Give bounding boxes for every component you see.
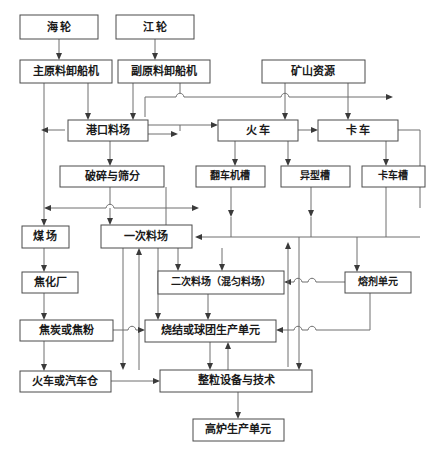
node-gaolu-label: 高炉生产单元 xyxy=(205,422,271,435)
arrow-bus-top-right xyxy=(386,94,393,100)
node-kuangshan-label: 矿山资源 xyxy=(291,64,335,77)
node-fuyuanliao-xiechuanji[interactable]: 副原料卸船机 xyxy=(118,60,210,83)
arrow-yixingcao-down xyxy=(308,210,314,217)
node-huoche-label: 火 车 xyxy=(246,123,271,136)
node-shaojie-qiutuan-danyuan[interactable]: 烧结或球团生产单元 xyxy=(145,320,276,342)
node-gaolu-shengchan-danyuan[interactable]: 高炉生产单元 xyxy=(193,419,284,441)
node-jiaotan-label: 焦炭或焦粉 xyxy=(38,323,94,336)
arrow-yiciliaochang-to-zhengli xyxy=(120,363,126,370)
node-gangkou-label: 港口料场 xyxy=(86,123,130,136)
arrow-mid-bus-to-right xyxy=(192,205,199,211)
arrow-kuangshan-to-kache xyxy=(345,113,351,120)
node-posui-yu-shaifen[interactable]: 破碎与筛分 xyxy=(60,166,164,187)
node-posui-label: 破碎与筛分 xyxy=(85,169,140,182)
arrow-huoche-to-kache xyxy=(311,127,318,133)
edge-rongji-to-erci-hop2 xyxy=(294,278,302,282)
node-jiaohuachang[interactable]: 焦化厂 xyxy=(22,272,78,293)
node-zhuyuanliao-label: 主原料卸船机 xyxy=(33,64,99,77)
arrow-haillun-to-zhuyuanliao xyxy=(56,53,62,60)
arrow-gangkou-to-huoche xyxy=(211,122,218,128)
arrow-kache-to-kachecao xyxy=(383,159,389,166)
node-zhengli-shebei-yu-jishu[interactable]: 整粒设备与技术 xyxy=(160,370,312,392)
node-zhengli-label: 整粒设备与技术 xyxy=(197,373,275,386)
edge-bus-top-hop1 xyxy=(176,93,184,97)
node-zhuyuanliao-xiechuanji[interactable]: 主原料卸船机 xyxy=(20,60,112,83)
arrow-posui-to-yiciliaochang xyxy=(107,218,113,225)
arrow-fanchejicao-down xyxy=(228,210,234,217)
node-jiaohuachang-label: 焦化厂 xyxy=(33,275,67,288)
edges-layer xyxy=(41,39,420,419)
node-hailun[interactable]: 海 轮 xyxy=(20,15,98,39)
arrow-kuangshan-to-huoche xyxy=(282,113,288,120)
node-meichang[interactable]: 煤 场 xyxy=(22,226,69,248)
arrow-jiaotan-to-shaojie xyxy=(138,327,145,333)
arrow-meichang-to-jiaohuachang xyxy=(41,265,47,272)
arrow-yiciliaochang-to-ercil-right xyxy=(219,264,225,271)
node-fanchejicao-label: 翻车机槽 xyxy=(210,169,250,181)
node-erciliaochang[interactable]: 二次料场（混匀料场） xyxy=(158,271,284,294)
arrow-jianglun-to-fuyuanliao xyxy=(152,53,158,60)
arrow-gangkou-right-lower xyxy=(171,131,178,137)
node-yiciliaochang-label: 一次料场 xyxy=(124,229,168,242)
arrow-zhengli-to-gaolu xyxy=(235,412,241,419)
arrow-jiaotan-to-huochecang xyxy=(41,364,47,371)
edge-rongji-to-shaojie-hop1 xyxy=(308,326,316,330)
node-shaojie-label: 烧结或球团生产单元 xyxy=(161,323,260,336)
node-rongji-danyuan[interactable]: 熔剂单元 xyxy=(345,272,411,293)
edge-gangkou-right-upper xyxy=(148,125,180,131)
node-rongji-label: 熔剂单元 xyxy=(358,275,398,287)
arrow-jiaohuachang-to-jiaotan xyxy=(41,313,47,320)
arrow-gangkou-to-posui xyxy=(107,159,113,166)
node-meichang-label: 煤 场 xyxy=(33,229,58,242)
arrow-fuyuanliao-to-gangkou xyxy=(130,113,136,120)
arrow-mid-bus-left xyxy=(44,205,51,211)
node-yixingcao[interactable]: 异型槽 xyxy=(281,166,350,187)
arrow-bus2-to-yiciliaochang xyxy=(195,234,202,240)
flowchart-page: 海 轮 江 轮 主原料卸船机 副原料卸船机 矿山资源 港口料场 火 车 xyxy=(0,0,443,457)
arrow-shaojie-to-zhengli xyxy=(207,363,213,370)
node-fuyuanliao-label: 副原料卸船机 xyxy=(131,64,197,77)
node-kache-label: 卡 车 xyxy=(346,123,371,136)
arrow-right-rail-a-to-zhengli xyxy=(296,363,302,370)
edge-rongji-to-erci-hop1 xyxy=(308,278,316,282)
node-gangkou-liaochang[interactable]: 港口料场 xyxy=(68,120,148,141)
node-jianglun-label: 江 轮 xyxy=(143,20,168,33)
arrow-rongji-to-shaojie xyxy=(276,327,283,333)
node-kache[interactable]: 卡 车 xyxy=(318,120,398,141)
arrow-right-rail-b-up xyxy=(285,242,291,249)
arrow-erciliaochang-to-shaojie xyxy=(205,313,211,320)
node-jiaotan-huo-jiaofen[interactable]: 焦炭或焦粉 xyxy=(20,320,113,341)
edge-rongji-to-shaojie-hop2 xyxy=(294,326,302,330)
arrow-return-rail-to-yiciliaochang xyxy=(136,248,142,255)
node-fanchejicao[interactable]: 翻车机槽 xyxy=(196,166,265,187)
node-kachecao-label: 卡车槽 xyxy=(378,169,408,181)
arrow-huochecang-to-zhengli xyxy=(153,378,160,384)
arrow-bus2-to-rongji xyxy=(354,265,360,272)
arrow-yiciliaochang-to-shaojie xyxy=(155,313,161,320)
node-kachecao[interactable]: 卡车槽 xyxy=(362,166,425,187)
node-huoche-huo-qiche-cang[interactable]: 火车或汽车仓 xyxy=(20,371,111,392)
node-huochecang-label: 火车或汽车仓 xyxy=(32,374,99,387)
node-huoche[interactable]: 火 车 xyxy=(218,120,298,141)
arrow-to-meichang xyxy=(41,219,47,226)
edge-jiaotan-to-shaojie-hop xyxy=(128,326,136,330)
flowchart-canvas: 海 轮 江 轮 主原料卸船机 副原料卸船机 矿山资源 港口料场 火 车 xyxy=(0,0,443,457)
node-kuangshan-ziyuan[interactable]: 矿山资源 xyxy=(262,60,365,83)
node-erciliaochang-label: 二次料场（混匀料场） xyxy=(171,275,271,287)
node-yiciliaochang[interactable]: 一次料场 xyxy=(101,225,192,248)
node-yixingcao-label: 异型槽 xyxy=(300,169,330,181)
arrow-huoche-to-yixingcao xyxy=(285,159,291,166)
arrow-zhuyuanliao-to-gangkou xyxy=(85,113,91,120)
node-jianglun[interactable]: 江 轮 xyxy=(116,15,194,39)
arrow-huoche-to-fanchejicao xyxy=(232,159,238,166)
arrow-yiciliaochang-to-erciliaochang xyxy=(175,264,181,271)
node-hailun-label: 海 轮 xyxy=(47,20,72,33)
arrow-zhengli-to-shaojie-up xyxy=(225,342,231,349)
